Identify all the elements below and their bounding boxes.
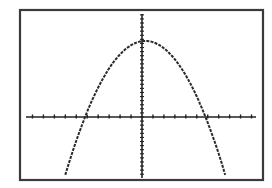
calculator-graph-screen <box>0 0 272 188</box>
graph-plot <box>0 0 272 188</box>
